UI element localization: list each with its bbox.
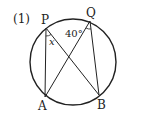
segment-PA <box>45 28 46 97</box>
label-B: B <box>97 98 106 112</box>
label-Q: Q <box>86 6 96 20</box>
problem-number: (1) <box>13 12 30 26</box>
segment-QB <box>90 21 99 95</box>
angle-arc-Q <box>86 28 91 29</box>
inscribed-angle-diagram: (1) P Q A B x 40° <box>0 0 154 121</box>
angle-label-40: 40° <box>65 28 83 39</box>
angle-label-x: x <box>49 36 55 47</box>
label-A: A <box>37 99 47 113</box>
label-P: P <box>41 13 49 27</box>
